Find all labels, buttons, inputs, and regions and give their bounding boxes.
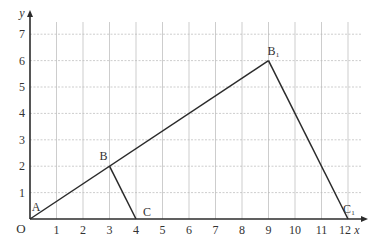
- point-label-b1: B₁: [267, 44, 279, 58]
- x-tick-label: 11: [316, 223, 328, 237]
- x-tick-label: 1: [54, 223, 60, 237]
- point-label-c1: C₁: [343, 202, 355, 216]
- x-axis-arrow-icon: [361, 216, 368, 222]
- origin-label: O: [16, 221, 25, 236]
- point-label-b: B: [99, 149, 107, 163]
- x-tick-label: 8: [239, 223, 245, 237]
- x-tick-label: 7: [213, 223, 219, 237]
- x-axis-label: x: [353, 223, 360, 237]
- x-tick-label: 9: [266, 223, 272, 237]
- y-tick-label: 4: [19, 106, 25, 120]
- y-tick-label: 3: [19, 133, 25, 147]
- y-tick-label: 7: [19, 27, 25, 41]
- x-tick-label: 4: [133, 223, 139, 237]
- x-tick-label: 5: [160, 223, 166, 237]
- x-tick-label: 3: [107, 223, 113, 237]
- y-tick-label: 2: [19, 159, 25, 173]
- x-tick-label: 10: [289, 223, 301, 237]
- y-tick-label: 1: [19, 186, 25, 200]
- y-axis-arrow-icon: [27, 10, 33, 17]
- x-tick-label: 6: [186, 223, 192, 237]
- point-label-a: A: [32, 200, 41, 214]
- x-tick-label: 12: [339, 223, 351, 237]
- x-tick-label: 2: [80, 223, 86, 237]
- y-axis-label: y: [18, 6, 25, 20]
- point-label-c: C: [143, 205, 151, 219]
- y-tick-label: 6: [19, 54, 25, 68]
- y-tick-label: 5: [19, 80, 25, 94]
- coordinate-diagram: 1234567891011121234567OxyABCB₁C₁: [0, 0, 373, 242]
